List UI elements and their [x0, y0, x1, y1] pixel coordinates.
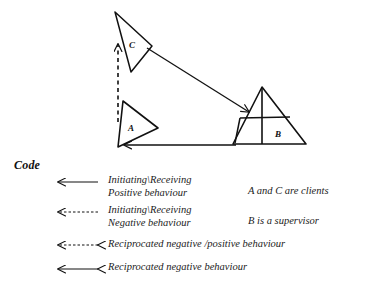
- relationship-diagram: C A B: [0, 0, 390, 295]
- diagram-canvas: C A B Code Initiating\Receiving Positive…: [0, 0, 390, 295]
- note-clients: A and C are clients: [248, 185, 329, 196]
- legend-entry-label-1: Initiating\Receiving Positive behaviour: [108, 174, 191, 199]
- legend-entry-label-2: Initiating\Receiving Negative behaviour: [108, 204, 191, 229]
- note-supervisor: B is a supervisor: [248, 215, 319, 226]
- node-label-b: B: [274, 129, 281, 139]
- node-triangle-a[interactable]: A: [118, 101, 158, 147]
- node-triangle-c[interactable]: C: [115, 12, 152, 72]
- legend-heading: Code: [14, 158, 40, 173]
- edge-c-to-b[interactable]: [147, 48, 249, 112]
- legend-entry-label-4: Reciprocated negative behaviour: [108, 261, 247, 274]
- node-triangle-b[interactable]: B: [233, 87, 306, 144]
- legend-entry-label-3: Reciprocated negative /positive behaviou…: [108, 238, 285, 251]
- node-label-a: A: [127, 123, 134, 133]
- node-label-c: C: [129, 40, 136, 50]
